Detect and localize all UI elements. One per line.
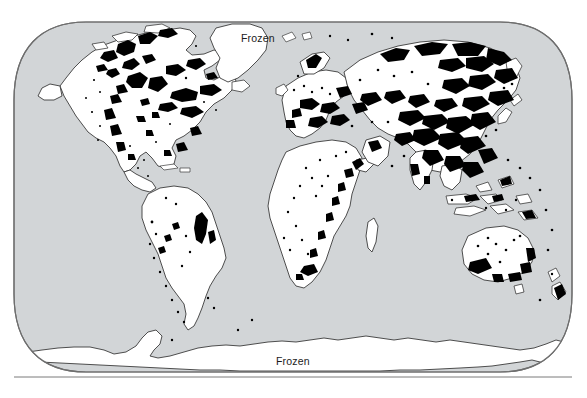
antarctic-frozen-label: Frozen [276, 355, 310, 367]
world-map-svg: Frozen Frozen [0, 0, 587, 398]
arctic-frozen-label: Frozen [241, 32, 275, 44]
world-map-figure: Frozen Frozen [0, 0, 587, 398]
tasmania-outline [514, 284, 524, 294]
